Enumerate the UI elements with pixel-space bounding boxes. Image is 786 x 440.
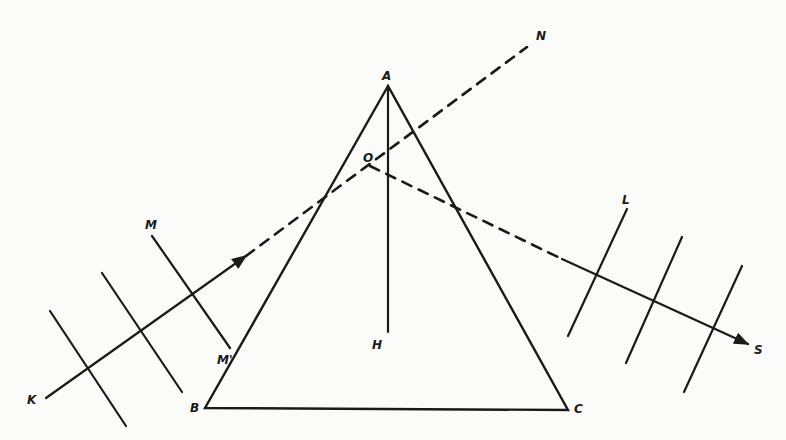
label-K: K (27, 393, 38, 407)
label-A: A (381, 69, 391, 83)
label-C: C (574, 402, 583, 416)
emergent-wavefront-L (568, 209, 627, 336)
emergent-ray (562, 259, 748, 344)
label-M-prime: M' (217, 353, 233, 367)
prism-triangle (205, 86, 568, 410)
label-O: O (363, 151, 373, 165)
label-S: S (754, 343, 763, 357)
prism-diagram: A B C H O N K M M' L S (0, 0, 786, 440)
label-M: M (145, 218, 157, 232)
refracted-ray-dashed (370, 166, 562, 259)
incident-wavefront-1 (50, 311, 126, 426)
label-L: L (622, 193, 630, 207)
emergent-wavefront-3 (684, 266, 742, 392)
incident-wavefront-MM (152, 236, 230, 348)
label-B: B (190, 401, 199, 415)
emergent-wavefront-2 (626, 237, 682, 363)
diagram-canvas: A B C H O N K M M' L S (0, 0, 786, 440)
label-H: H (372, 338, 382, 352)
label-N: N (536, 29, 546, 43)
incident-wavefront-2 (102, 273, 182, 392)
